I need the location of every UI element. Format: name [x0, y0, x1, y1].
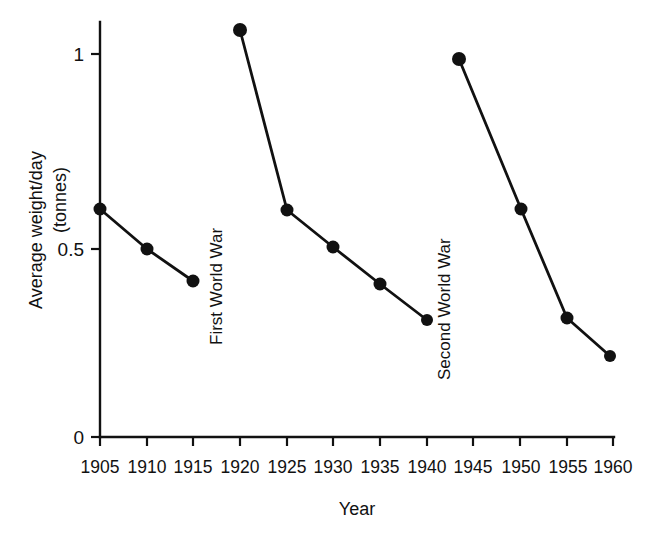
data-point-1935	[374, 278, 387, 291]
x-tick-label-1925: 1925	[268, 457, 307, 477]
series-interwar	[233, 23, 433, 326]
x-tick-label-1930: 1930	[314, 457, 353, 477]
x-tick-marks	[100, 437, 613, 446]
x-tick-label-1935: 1935	[361, 457, 400, 477]
data-point-1960	[604, 350, 616, 362]
y-tick-label-1: 1	[73, 44, 84, 65]
series-post-wwii-line	[459, 59, 610, 356]
chart-container: 1 0.5 0 1905 1910 1915 1920 1925 1930 1	[0, 0, 665, 539]
data-point-1945	[452, 52, 466, 66]
line-chart: 1 0.5 0 1905 1910 1915 1920 1925 1930 1	[0, 0, 665, 539]
x-tick-labels: 1905 1910 1915 1920 1925 1930 1935 1940 …	[81, 457, 633, 477]
series-interwar-line	[240, 30, 427, 320]
annotation-first-world-war: First World War	[207, 228, 226, 345]
data-point-1930	[327, 241, 340, 254]
data-point-1940	[421, 314, 433, 326]
x-tick-label-1920: 1920	[221, 457, 260, 477]
data-point-1915	[187, 275, 200, 288]
series-post-wwii	[452, 52, 616, 362]
x-tick-label-1905: 1905	[81, 457, 120, 477]
data-point-1925	[281, 204, 294, 217]
y-tick-label-0: 0	[73, 427, 84, 448]
data-point-1920	[233, 23, 247, 37]
x-tick-label-1910: 1910	[128, 457, 167, 477]
data-point-1905	[94, 203, 107, 216]
y-axis-title: Average weight/day (tonnes)	[26, 151, 70, 309]
y-tick-marks	[91, 54, 100, 437]
series-pre-wwi	[94, 203, 200, 288]
x-tick-label-1955: 1955	[549, 457, 588, 477]
x-tick-label-1915: 1915	[174, 457, 213, 477]
data-point-1910	[141, 243, 154, 256]
axes-group	[100, 22, 614, 437]
x-tick-label-1945: 1945	[454, 457, 493, 477]
data-point-1950	[515, 203, 528, 216]
data-point-1955	[561, 312, 574, 325]
y-tick-label-0_5: 0.5	[58, 239, 84, 260]
x-tick-label-1960: 1960	[594, 457, 633, 477]
x-tick-label-1940: 1940	[408, 457, 447, 477]
x-tick-label-1950: 1950	[502, 457, 541, 477]
y-axis-title-line1: Average weight/day	[26, 151, 46, 309]
x-axis-title: Year	[339, 499, 375, 519]
y-axis-title-line2: (tonnes)	[50, 167, 70, 233]
annotation-second-world-war: Second World War	[435, 238, 454, 380]
